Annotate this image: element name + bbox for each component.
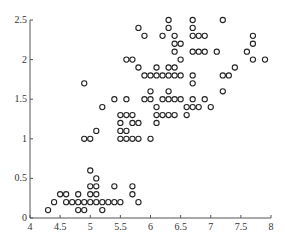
data-point bbox=[45, 207, 50, 212]
data-point bbox=[226, 73, 231, 78]
x-tick-label: 8 bbox=[269, 221, 274, 232]
data-point bbox=[208, 105, 213, 110]
data-point bbox=[172, 112, 177, 117]
data-point bbox=[52, 200, 57, 205]
x-tick-label: 5.5 bbox=[114, 221, 127, 232]
data-point bbox=[124, 97, 129, 102]
data-point bbox=[100, 200, 105, 205]
data-point bbox=[166, 97, 171, 102]
x-tick-label: 5 bbox=[88, 221, 93, 232]
data-point bbox=[94, 176, 99, 181]
x-tick-label: 7.5 bbox=[235, 221, 248, 232]
data-point bbox=[130, 192, 135, 197]
data-point bbox=[160, 97, 165, 102]
data-point bbox=[166, 65, 171, 70]
x-tick-label: 4 bbox=[28, 221, 33, 232]
data-point bbox=[88, 184, 93, 189]
data-point bbox=[250, 57, 255, 62]
data-point bbox=[172, 73, 177, 78]
data-point bbox=[142, 73, 147, 78]
data-point bbox=[166, 25, 171, 30]
data-point bbox=[160, 33, 165, 38]
data-point bbox=[82, 136, 87, 141]
data-point bbox=[196, 49, 201, 54]
x-tick-label: 6 bbox=[148, 221, 153, 232]
data-point bbox=[250, 41, 255, 46]
data-point bbox=[154, 73, 159, 78]
data-point bbox=[190, 81, 195, 86]
data-point bbox=[82, 81, 87, 86]
data-point bbox=[130, 112, 135, 117]
data-point bbox=[112, 184, 117, 189]
data-point bbox=[190, 73, 195, 78]
data-point bbox=[190, 97, 195, 102]
data-point bbox=[88, 136, 93, 141]
data-point bbox=[178, 97, 183, 102]
data-point bbox=[166, 73, 171, 78]
data-point bbox=[106, 200, 111, 205]
data-point bbox=[94, 128, 99, 133]
data-point bbox=[118, 112, 123, 117]
data-point bbox=[94, 184, 99, 189]
data-point bbox=[172, 65, 177, 70]
data-point bbox=[112, 200, 117, 205]
data-point bbox=[130, 120, 135, 125]
x-tick-label: 7 bbox=[208, 221, 213, 232]
data-point bbox=[202, 97, 207, 102]
data-point bbox=[250, 33, 255, 38]
data-point bbox=[154, 120, 159, 125]
data-point bbox=[190, 49, 195, 54]
y-tick-label: 1 bbox=[22, 133, 27, 144]
data-point bbox=[202, 49, 207, 54]
data-point bbox=[172, 49, 177, 54]
data-point bbox=[124, 128, 129, 133]
data-point bbox=[166, 89, 171, 94]
data-point bbox=[88, 168, 93, 173]
data-point bbox=[82, 207, 87, 212]
data-point bbox=[118, 136, 123, 141]
data-point bbox=[124, 112, 129, 117]
data-point bbox=[190, 105, 195, 110]
data-point bbox=[148, 89, 153, 94]
data-point bbox=[184, 112, 189, 117]
data-point bbox=[148, 97, 153, 102]
data-point bbox=[94, 200, 99, 205]
data-point bbox=[154, 65, 159, 70]
data-point bbox=[190, 33, 195, 38]
data-point bbox=[100, 105, 105, 110]
data-point bbox=[88, 200, 93, 205]
data-point bbox=[148, 73, 153, 78]
data-point bbox=[178, 57, 183, 62]
data-point bbox=[118, 200, 123, 205]
data-point bbox=[124, 136, 129, 141]
data-point bbox=[190, 25, 195, 30]
data-point bbox=[166, 17, 171, 22]
data-point bbox=[70, 200, 75, 205]
data-point bbox=[76, 192, 81, 197]
data-point bbox=[178, 41, 183, 46]
data-point bbox=[118, 128, 123, 133]
data-point bbox=[142, 33, 147, 38]
data-point bbox=[154, 112, 159, 117]
data-point bbox=[184, 105, 189, 110]
x-tick-label: 6.5 bbox=[174, 221, 187, 232]
data-point bbox=[166, 112, 171, 117]
y-tick-label: 2.5 bbox=[15, 14, 28, 25]
data-point bbox=[220, 73, 225, 78]
data-point bbox=[262, 57, 267, 62]
data-point bbox=[112, 97, 117, 102]
data-point bbox=[130, 184, 135, 189]
y-tick-label: 2 bbox=[22, 54, 27, 65]
data-point bbox=[118, 120, 123, 125]
data-point bbox=[64, 200, 69, 205]
data-point bbox=[196, 33, 201, 38]
data-point bbox=[172, 41, 177, 46]
data-point bbox=[88, 192, 93, 197]
data-point bbox=[76, 200, 81, 205]
data-point bbox=[136, 25, 141, 30]
data-points bbox=[45, 17, 267, 212]
data-point bbox=[232, 65, 237, 70]
data-point bbox=[148, 136, 153, 141]
data-point bbox=[178, 73, 183, 78]
data-point bbox=[124, 57, 129, 62]
